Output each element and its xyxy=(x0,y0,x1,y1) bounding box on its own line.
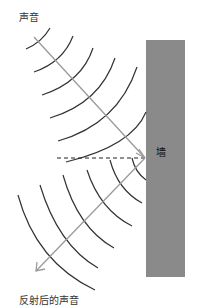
wall-label: 墙 xyxy=(156,147,166,159)
reflected-sound-label: 反射后的声音 xyxy=(19,295,79,307)
incident-ray xyxy=(34,37,145,158)
reflected-ray xyxy=(36,158,145,271)
incident-sound-label: 声音 xyxy=(19,12,39,24)
